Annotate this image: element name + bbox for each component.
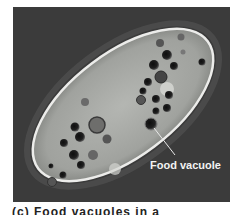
food-vacuole-label: Food vacuole	[150, 159, 221, 171]
paramecium-illustration	[13, 7, 230, 202]
caption-text: (c) Food vacuoles in a paramecium	[12, 207, 232, 215]
figure-caption: (c) Food vacuoles in a paramecium	[12, 207, 232, 215]
micrograph-photo	[13, 7, 230, 202]
